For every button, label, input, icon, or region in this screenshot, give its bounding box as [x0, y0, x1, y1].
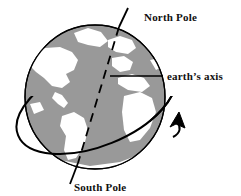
- label-north-pole: North Pole: [144, 12, 197, 23]
- rotation-arrow-head: [170, 112, 185, 128]
- earth-diagram: North Pole earth’s axis South Pole: [0, 0, 241, 196]
- earth-illustration: [0, 0, 241, 196]
- label-earths-axis: earth’s axis: [167, 71, 223, 82]
- axis-line-north-segment: [119, 8, 128, 27]
- label-south-pole: South Pole: [74, 182, 126, 193]
